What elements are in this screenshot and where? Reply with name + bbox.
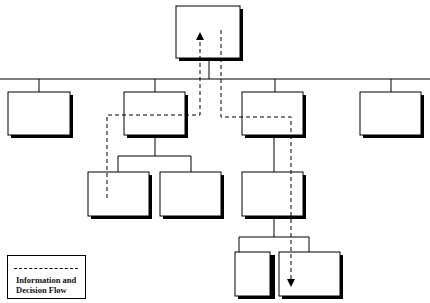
- connector-lines: [0, 60, 430, 252]
- legend-line-2: Decision Flow: [16, 285, 76, 295]
- legend-label: Information and Decision Flow: [16, 275, 76, 295]
- legend-line-1: Information and: [16, 275, 76, 285]
- dashed-line-sample: [14, 268, 78, 269]
- legend: Information and Decision Flow: [7, 255, 86, 299]
